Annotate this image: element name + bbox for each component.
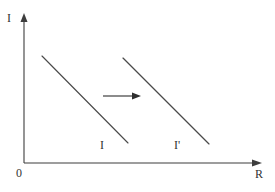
y-axis-label: I — [7, 12, 11, 24]
shift-arrow-head-icon — [132, 93, 141, 100]
curve-i-prime-label: I' — [174, 139, 180, 151]
curve-i-line — [42, 56, 128, 143]
curve-i-label: I — [100, 139, 104, 151]
x-axis-label: R — [255, 168, 263, 180]
diagram-canvas — [0, 0, 275, 192]
investment-shift-diagram: I R 0 I I' — [0, 0, 275, 192]
curve-i-prime-line — [123, 58, 209, 144]
origin-label: 0 — [16, 167, 22, 179]
y-axis-arrow-icon — [21, 13, 28, 22]
x-axis-arrow-icon — [252, 160, 262, 167]
